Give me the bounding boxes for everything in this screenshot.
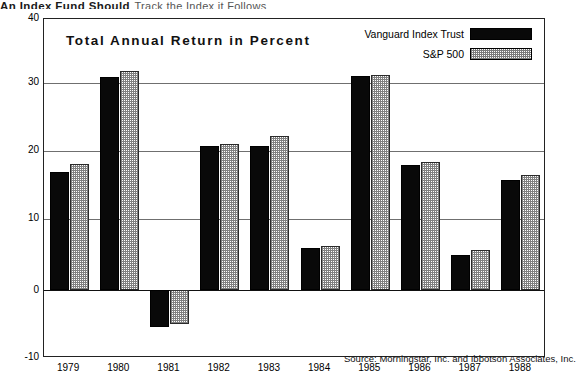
bar-1980-sp500 [120, 71, 139, 291]
bar-1981-vanguard [150, 290, 169, 327]
bar-1984-sp500 [321, 246, 340, 290]
x-tick-1984: 1984 [294, 362, 344, 374]
y-tick-0: 0 [3, 285, 39, 295]
bar-1988-sp500 [521, 175, 540, 290]
x-tick-1985: 1985 [344, 362, 394, 374]
bars-layer [44, 19, 544, 356]
x-tick-1980: 1980 [93, 362, 143, 374]
bar-1984-vanguard [301, 248, 320, 290]
bar-1987-sp500 [471, 250, 490, 290]
bar-1983-vanguard [250, 146, 269, 290]
bar-1988-vanguard [501, 180, 520, 290]
y-tick-10: 10 [3, 213, 39, 223]
bar-1982-vanguard [200, 146, 219, 290]
y-axis: 40 30 20 10 0 -10 [0, 0, 39, 380]
bar-1983-sp500 [270, 136, 289, 290]
x-tick-1987: 1987 [445, 362, 495, 374]
bar-1986-vanguard [401, 165, 420, 290]
y-tick-20: 20 [3, 145, 39, 155]
plot-area: Total Annual Return in Percent Vanguard … [43, 18, 545, 357]
x-tick-1981: 1981 [143, 362, 193, 374]
bar-1982-sp500 [220, 144, 239, 290]
x-tick-1986: 1986 [394, 362, 444, 374]
bar-1979-vanguard [50, 172, 69, 290]
x-tick-1988: 1988 [495, 362, 545, 374]
y-tick-40: 40 [3, 13, 39, 23]
y-tick-30: 30 [3, 77, 39, 87]
x-tick-1983: 1983 [244, 362, 294, 374]
x-tick-1982: 1982 [194, 362, 244, 374]
bar-1985-vanguard [351, 76, 370, 290]
bar-1987-vanguard [451, 255, 470, 290]
y-tick-neg10: -10 [3, 352, 39, 362]
x-axis: 1979198019811982198319841985198619871988 [43, 362, 545, 378]
bar-1979-sp500 [70, 164, 89, 290]
x-tick-1979: 1979 [43, 362, 93, 374]
bar-1981-sp500 [170, 290, 189, 324]
bar-1980-vanguard [100, 77, 119, 291]
bar-1986-sp500 [421, 162, 440, 290]
bar-1985-sp500 [371, 75, 390, 291]
